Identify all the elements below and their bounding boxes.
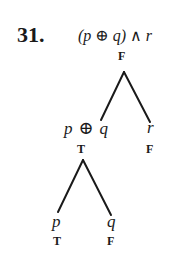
edge-root-left <box>101 72 124 120</box>
xor-operator: ⊕ <box>79 118 94 138</box>
edge-xor-right <box>83 160 111 215</box>
r-node: r <box>147 119 154 136</box>
tree-edges <box>0 0 173 276</box>
xor-node: p ⊕ q <box>64 119 108 137</box>
p-leaf: p <box>52 213 61 230</box>
p-truth-value: T <box>53 235 61 247</box>
xor-node-q: q <box>100 119 109 138</box>
r-truth-value: F <box>146 143 153 155</box>
edge-root-right <box>124 72 150 122</box>
xor-truth-value: T <box>77 143 85 155</box>
edge-xor-left <box>58 160 83 212</box>
q-leaf: q <box>107 213 116 230</box>
xor-node-p: p <box>64 119 73 138</box>
q-truth-value: F <box>107 235 114 247</box>
